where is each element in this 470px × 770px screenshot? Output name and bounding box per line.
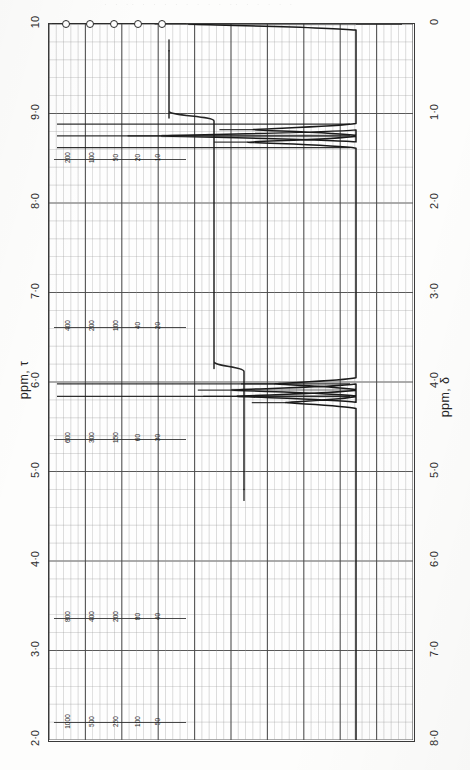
- calibration-rule: [54, 439, 186, 440]
- calibration-label: 20: [134, 148, 141, 168]
- calibration-label: 250: [112, 711, 119, 731]
- calibration-label: 100: [134, 711, 141, 731]
- ring-marker: [110, 20, 118, 28]
- calibration-label: 100: [88, 148, 95, 168]
- left-tick-label: 10: [29, 9, 41, 35]
- right-tick-label: 5·0: [428, 457, 440, 483]
- calibration-label: 60: [134, 428, 141, 448]
- spectrum-trace: [49, 24, 413, 740]
- left-tick-label: 2·0: [29, 725, 41, 751]
- calibration-rule: [54, 722, 186, 723]
- right-tick-label: 6·0: [428, 546, 440, 572]
- calibration-label: 20: [154, 316, 161, 336]
- calibration-label: 400: [64, 316, 71, 336]
- calibration-label: 50: [112, 148, 119, 168]
- calibration-label: 1000: [64, 711, 71, 731]
- calibration-rule: [54, 159, 186, 160]
- calibration-label: 50: [154, 711, 161, 731]
- page-bleed-text: · · ·· · · · · · · · · ·· · · · · ·: [104, 0, 464, 14]
- right-tick-label: 3·0: [428, 278, 440, 304]
- calibration-label: 800: [64, 607, 71, 627]
- calibration-label: 40: [154, 607, 161, 627]
- left-tick-label: 6·0: [29, 367, 41, 393]
- calibration-label: 600: [64, 428, 71, 448]
- left-tick-label: 7·0: [29, 278, 41, 304]
- calibration-label: 40: [134, 316, 141, 336]
- right-tick-label: 1·0: [428, 99, 440, 125]
- right-tick-label: 0: [428, 9, 440, 35]
- calibration-label: 400: [88, 607, 95, 627]
- calibration-label: 30: [154, 428, 161, 448]
- calibration-label: 200: [64, 148, 71, 168]
- ring-marker: [86, 20, 94, 28]
- left-tick-label: 9·0: [29, 99, 41, 125]
- ring-marker: [62, 20, 70, 28]
- calibration-label: 80: [134, 607, 141, 627]
- left-tick-label: 8·0: [29, 188, 41, 214]
- calibration-label: 150: [112, 428, 119, 448]
- ring-marker: [158, 20, 166, 28]
- chart-plot-area: [49, 24, 414, 741]
- calibration-rule: [54, 618, 186, 619]
- right-tick-label: 7·0: [428, 636, 440, 662]
- calibration-label: 300: [88, 428, 95, 448]
- right-tick-label: 2·0: [428, 188, 440, 214]
- nmr-chart: [48, 23, 415, 742]
- calibration-label: 500: [88, 711, 95, 731]
- right-tick-label: 4·0: [428, 367, 440, 393]
- calibration-label: 100: [112, 316, 119, 336]
- ring-marker: [134, 20, 142, 28]
- left-tick-label: 3·0: [29, 636, 41, 662]
- calibration-label: 200: [88, 316, 95, 336]
- left-tick-label: 5·0: [29, 457, 41, 483]
- calibration-rule: [54, 327, 186, 328]
- calibration-label: 10: [154, 148, 161, 168]
- calibration-label: 200: [112, 607, 119, 627]
- right-tick-label: 8·0: [428, 725, 440, 751]
- right-axis-title: ppm, δ: [438, 367, 452, 427]
- left-tick-label: 4·0: [29, 546, 41, 572]
